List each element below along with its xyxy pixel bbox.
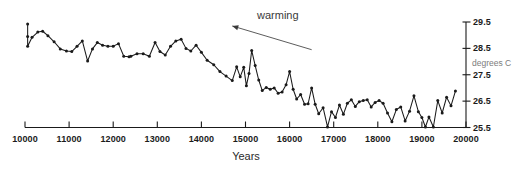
y-axis-title: degrees C: [472, 58, 511, 68]
x-axis-title: Years: [232, 150, 260, 162]
x-axis-tick-label: 16000: [277, 134, 303, 144]
series-point: [334, 116, 337, 119]
x-axis-tick-label: 13000: [145, 134, 171, 144]
x-axis-tick-label: 12000: [100, 134, 126, 144]
series-point: [184, 47, 187, 50]
series-point: [288, 70, 291, 73]
x-axis-tick-label: 17000: [321, 134, 347, 144]
series-point: [96, 41, 99, 44]
series-point: [338, 104, 341, 107]
series-point: [81, 39, 84, 42]
series-point: [112, 45, 115, 48]
series-point: [212, 63, 215, 66]
series-point: [225, 75, 228, 78]
series-point: [404, 119, 407, 122]
series-point: [148, 55, 151, 58]
warming-arrow-line: [232, 26, 311, 50]
x-axis-tick-label: 14000: [189, 134, 215, 144]
x-axis-ticks: [25, 122, 466, 128]
x-axis-tick-label: 19000: [409, 134, 435, 144]
series-point: [330, 110, 333, 113]
series-point: [386, 111, 389, 114]
series-point: [310, 86, 313, 89]
series-point: [231, 79, 234, 82]
series-point: [26, 35, 29, 38]
series-point: [307, 102, 310, 105]
series-point: [189, 50, 192, 53]
series-point: [450, 104, 453, 107]
series-line: [28, 24, 456, 127]
y-axis-tick-label: 29.5: [473, 17, 491, 27]
series-point: [195, 44, 198, 47]
series-point: [31, 36, 34, 39]
series-point: [350, 98, 353, 101]
series-point: [261, 89, 264, 92]
series-point: [242, 66, 245, 69]
chart-axes: [25, 22, 471, 128]
series-point: [76, 45, 79, 48]
series-point: [292, 88, 295, 91]
series-point: [395, 108, 398, 111]
warming-arrow-head: [232, 25, 238, 30]
series-markers: [26, 23, 457, 129]
series-point: [295, 98, 298, 101]
series-point: [239, 75, 242, 78]
y-axis-tick-label: 26.5: [473, 96, 491, 106]
series-point: [218, 70, 221, 73]
series-point: [248, 72, 251, 75]
temperature-series: [26, 23, 457, 129]
series-point: [70, 50, 73, 53]
series-point: [420, 116, 423, 119]
series-point: [46, 34, 49, 37]
series-point: [432, 125, 435, 128]
series-point: [378, 99, 381, 102]
series-point: [299, 93, 302, 96]
series-point: [257, 79, 260, 82]
series-point: [354, 105, 357, 108]
series-point: [399, 105, 402, 108]
series-point: [382, 102, 385, 105]
series-point: [235, 65, 238, 68]
series-point: [91, 47, 94, 50]
warming-annotation-label: warming: [257, 9, 299, 21]
series-point: [322, 106, 325, 109]
series-point: [106, 45, 109, 48]
series-point: [86, 60, 89, 63]
series-point: [206, 59, 209, 62]
y-axis-tick-label: 25.5: [473, 123, 491, 133]
series-point: [245, 84, 248, 87]
series-point: [374, 101, 377, 104]
series-point: [169, 45, 172, 48]
series-point: [164, 53, 167, 56]
y-axis-tick-label: 27.5: [473, 70, 491, 80]
series-point: [254, 64, 257, 67]
series-point: [265, 86, 268, 89]
series-point: [417, 110, 420, 113]
x-axis-tick-label: 15000: [233, 134, 259, 144]
warming-annotation-arrow: [232, 25, 311, 50]
series-point: [36, 31, 39, 34]
x-axis-tick-label: 10000: [12, 134, 38, 144]
series-point: [26, 23, 29, 26]
series-point: [129, 55, 132, 58]
series-point: [408, 110, 411, 113]
series-point: [142, 52, 145, 55]
series-point: [285, 83, 288, 86]
series-point: [370, 105, 373, 108]
series-point: [269, 88, 272, 91]
x-axis-tick-label: 11000: [57, 134, 82, 144]
chart-figure: 1000011000120001300014000150001600017000…: [0, 0, 522, 172]
series-point: [390, 120, 393, 123]
series-point: [174, 39, 177, 42]
series-point: [273, 86, 276, 89]
series-point: [427, 115, 430, 118]
chart-plot-area: [0, 0, 522, 172]
series-point: [200, 51, 203, 54]
series-point: [59, 47, 62, 50]
series-point: [41, 30, 44, 33]
series-point: [281, 90, 284, 93]
series-point: [26, 45, 29, 48]
series-point: [342, 113, 345, 116]
series-point: [436, 99, 439, 102]
series-point: [65, 50, 68, 53]
